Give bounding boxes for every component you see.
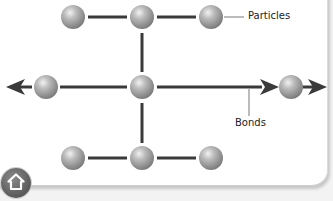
particle <box>130 146 154 170</box>
particle <box>279 75 303 99</box>
particle <box>61 146 85 170</box>
particle <box>199 146 223 170</box>
particle <box>34 75 58 99</box>
bonds-label: Bonds <box>235 117 266 128</box>
particle-bond-diagram <box>0 0 333 201</box>
arrow-right-mid-icon <box>260 79 279 95</box>
particle <box>130 5 154 29</box>
particle <box>61 5 85 29</box>
home-button[interactable] <box>1 168 31 198</box>
particle <box>199 5 223 29</box>
particles-label: Particles <box>248 10 290 21</box>
particle <box>130 75 154 99</box>
home-icon <box>7 173 25 191</box>
